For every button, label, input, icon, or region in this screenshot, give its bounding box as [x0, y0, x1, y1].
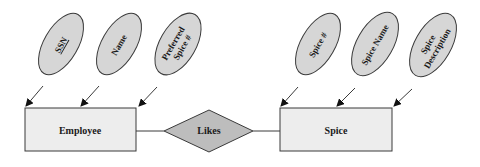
entity-label: Spice: [325, 125, 348, 136]
entity-label: Employee: [59, 125, 102, 136]
attribute-spice-num[interactable]: Spice #: [281, 6, 350, 106]
entity-employee[interactable]: Employee: [25, 108, 136, 151]
er-diagram: SSN Name Preferred Spice # Spice # Spice…: [0, 0, 480, 167]
attribute-spice-name[interactable]: Spice Name: [337, 5, 408, 106]
attribute-arrow: [337, 88, 355, 106]
attribute-arrow: [394, 89, 412, 106]
entity-spice[interactable]: Spice: [280, 108, 392, 151]
attribute-ssn[interactable]: SSN: [26, 6, 93, 106]
attribute-name[interactable]: Name: [81, 6, 151, 106]
attribute-arrow: [139, 87, 157, 106]
relationship-label: Likes: [197, 125, 220, 136]
attribute-preferred-spice[interactable]: Preferred Spice #: [139, 6, 211, 106]
attribute-arrow: [26, 86, 43, 106]
attribute-spice-description[interactable]: Spice Description: [394, 6, 466, 106]
relationship-likes[interactable]: Likes: [164, 110, 253, 152]
attribute-arrow: [81, 86, 99, 106]
attribute-arrow: [281, 87, 298, 106]
